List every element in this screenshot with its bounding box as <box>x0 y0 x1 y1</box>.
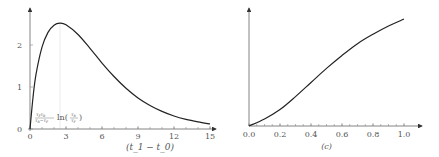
left-chart: 03691215 012 (t_1 − t_0) τFτR τR−τF ln( … <box>17 8 216 153</box>
x-tick-label: 6 <box>99 132 104 141</box>
x-tick-label: 12 <box>169 132 179 141</box>
x-tick-label: 0.0 <box>243 130 256 139</box>
x-tick-label: 0.6 <box>336 130 349 139</box>
y-tick-label: 2 <box>17 41 22 50</box>
x-axis-label: (t_1 − t_0) <box>126 142 174 153</box>
x-tick-label: 9 <box>135 132 140 141</box>
x-tick-label: 0.8 <box>367 130 380 139</box>
x-tick-label: 0.4 <box>305 130 318 139</box>
x-tick-label: 3 <box>63 132 68 141</box>
x-tick-label: 0 <box>27 132 32 141</box>
right-chart: 0.00.20.40.60.81.0 (c) <box>243 8 422 151</box>
x-tick-label: 0.2 <box>274 130 287 139</box>
x-axis-label: (c) <box>321 142 332 151</box>
svg-text:τR−τF: τR−τF <box>35 118 49 124</box>
y-tick-label: 0 <box>17 125 22 134</box>
svg-text:ln(: ln( <box>57 113 68 122</box>
svg-text:τF: τF <box>71 118 77 124</box>
x-tick-label: 1.0 <box>398 130 411 139</box>
svg-text:): ) <box>79 113 82 122</box>
annotation: τFτR τR−τF ln( τR τF ) <box>35 112 82 124</box>
y-tick-label: 1 <box>17 83 22 92</box>
x-tick-label: 15 <box>205 132 215 141</box>
series-line <box>249 19 404 126</box>
chart-figure: 03691215 012 (t_1 − t_0) τFτR τR−τF ln( … <box>0 0 439 157</box>
